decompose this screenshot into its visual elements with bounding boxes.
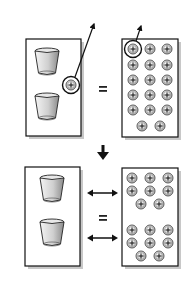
- ion-plus-icon: [66, 80, 76, 90]
- equals-sign: [99, 86, 107, 92]
- top-left-box: [26, 39, 84, 139]
- equals-sign: [99, 215, 107, 221]
- diagram-canvas: [0, 0, 191, 291]
- top-panel: [26, 24, 181, 140]
- double-arrow-icon: [87, 190, 118, 197]
- double-arrow-icon: [87, 235, 118, 242]
- bottom-right-box: [122, 168, 181, 269]
- cup-icon: [40, 175, 64, 202]
- bottom-left-box: [25, 167, 83, 269]
- bottom-panel: [25, 167, 181, 269]
- cup-icon: [40, 219, 64, 246]
- down-arrow-icon: [97, 145, 109, 160]
- top-right-box: [122, 39, 181, 140]
- cup-icon: [35, 93, 59, 120]
- cup-icon: [35, 48, 59, 75]
- diagram: = =: [0, 0, 191, 291]
